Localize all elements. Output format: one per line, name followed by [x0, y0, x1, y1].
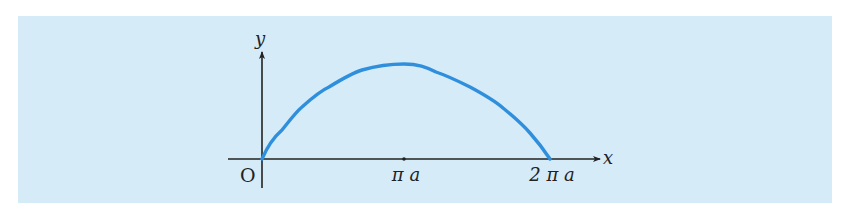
- origin-label: O: [240, 164, 256, 186]
- tick-label-2pi-a: 2 π a: [528, 164, 574, 185]
- tick-label-pi-a: π a: [391, 164, 420, 185]
- cycloid-curve: [262, 64, 550, 159]
- cycloid-figure: y x O π a 2 π a: [0, 0, 844, 213]
- y-axis-label: y: [254, 28, 266, 49]
- tick-pi-a: [402, 157, 406, 161]
- x-axis-label: x: [603, 147, 613, 168]
